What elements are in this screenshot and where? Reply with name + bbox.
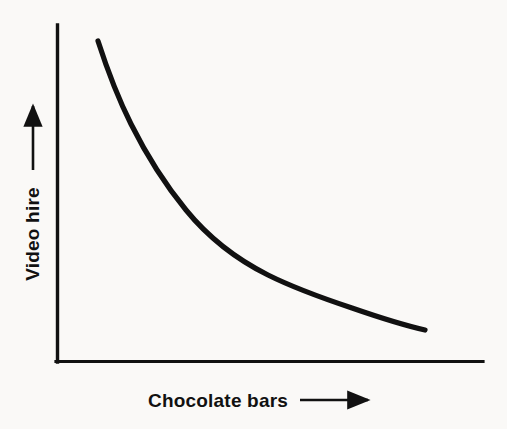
x-axis-label: Chocolate bars xyxy=(148,390,288,412)
chart-plot-area xyxy=(0,0,507,429)
chart-figure: Video hire Chocolate bars xyxy=(0,0,507,429)
y-axis-label: Video hire xyxy=(22,187,44,281)
data-curve-video-hire xyxy=(98,41,425,330)
